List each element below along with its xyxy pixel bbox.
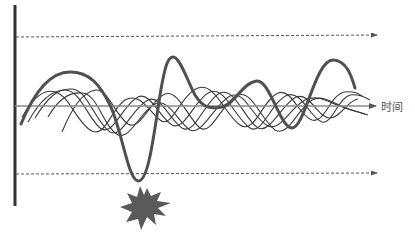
oscillation-diagram: [0, 0, 415, 244]
thin-curve-2: [28, 90, 370, 130]
thick-oscillating-curve: [21, 57, 355, 181]
starburst-breach-marker: [120, 186, 171, 230]
time-axis-label: 时间: [381, 98, 403, 114]
lower-threshold-dashed-arrow: [16, 173, 377, 174]
upper-threshold-dashed-arrow: [16, 35, 377, 37]
